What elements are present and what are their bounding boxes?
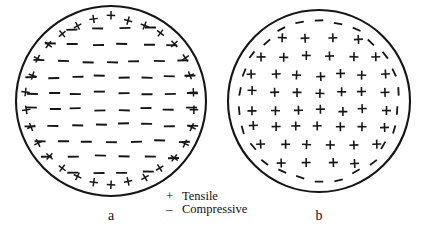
cross-section-circle-a xyxy=(16,6,206,196)
figure-container: a b + Tensile – Compressive xyxy=(0,0,425,234)
legend-label-compressive: Compressive xyxy=(182,203,247,216)
legend-item-compressive: – Compressive xyxy=(166,202,286,215)
cross-section-circle-b xyxy=(228,10,410,192)
legend-item-tensile: + Tensile xyxy=(166,189,286,202)
legend: + Tensile – Compressive xyxy=(166,189,286,215)
panel-b xyxy=(228,10,410,192)
panel-label-b: b xyxy=(304,208,334,224)
minus-icon: – xyxy=(166,202,182,215)
panel-a xyxy=(16,6,206,196)
panel-label-a: a xyxy=(96,208,126,224)
